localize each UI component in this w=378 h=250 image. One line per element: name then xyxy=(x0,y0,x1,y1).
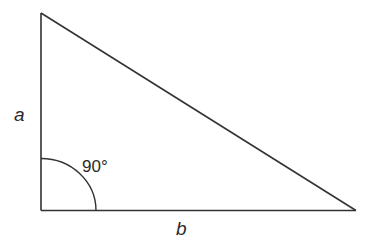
hypotenuse-line xyxy=(41,13,356,211)
triangle xyxy=(41,13,356,211)
side-a-label: a xyxy=(14,104,25,125)
angle-label: 90° xyxy=(82,157,108,176)
side-b-label: b xyxy=(176,218,187,239)
right-triangle-diagram: a b 90° xyxy=(0,0,378,250)
